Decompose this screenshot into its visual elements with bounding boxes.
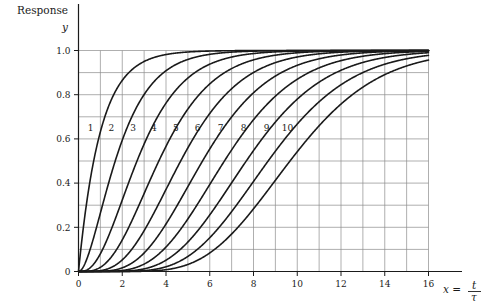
- x-tick-label: 6: [207, 279, 213, 289]
- curve-label-7: 7: [218, 123, 224, 133]
- x-tick-label: 8: [251, 279, 257, 289]
- curve-labels-layer: 12345678910: [88, 123, 294, 133]
- axes-layer: [74, 4, 462, 276]
- y-tick-label: 0.2: [56, 223, 70, 233]
- response-curves-chart: 024681012141600.20.40.60.81.0 1234567891…: [0, 0, 495, 303]
- x-tick-label: 4: [163, 279, 169, 289]
- x-tick-label: 10: [292, 279, 304, 289]
- curve-label-10: 10: [282, 123, 294, 133]
- x-axis-caption-numerator: t: [472, 279, 477, 291]
- x-axis-caption-lhs: x =: [443, 283, 461, 295]
- y-tick-label: 0.4: [56, 178, 71, 188]
- y-tick-label: 0: [65, 267, 71, 277]
- grid-layer: [79, 51, 429, 272]
- x-tick-label: 2: [119, 279, 125, 289]
- x-tick-label: 12: [335, 279, 346, 289]
- figure-root: 024681012141600.20.40.60.81.0 1234567891…: [0, 0, 495, 303]
- y-tick-label: 0.8: [56, 90, 71, 100]
- y-axis-symbol: y: [61, 21, 69, 33]
- x-tick-label: 14: [379, 279, 391, 289]
- y-axis-caption: Response: [17, 4, 68, 16]
- x-tick-label: 16: [423, 279, 435, 289]
- y-tick-label: 1.0: [56, 46, 71, 56]
- y-tick-label: 0.6: [56, 134, 71, 144]
- curve-label-8: 8: [241, 123, 247, 133]
- x-axis-caption-denominator: τ: [471, 291, 477, 303]
- curve-label-6: 6: [195, 123, 201, 133]
- curve-label-1: 1: [88, 123, 94, 133]
- curve-label-5: 5: [173, 123, 179, 133]
- curve-label-9: 9: [264, 123, 270, 133]
- curve-label-3: 3: [130, 123, 136, 133]
- curve-label-2: 2: [108, 123, 114, 133]
- curve-label-4: 4: [151, 123, 157, 133]
- x-tick-label: 0: [76, 279, 82, 289]
